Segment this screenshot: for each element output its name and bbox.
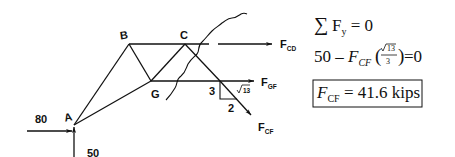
svg-text:13: 13 — [243, 87, 251, 94]
node-label-G: G — [151, 88, 160, 100]
svg-text:FCF = 41.6 kips: FCF = 41.6 kips — [316, 83, 420, 104]
node-label-B: B — [119, 29, 129, 42]
svg-text:50 – FCF: 50 – FCF — [314, 47, 372, 68]
truss-section-diagram: A B C G 80 50 FCD FGF FCF 3 2 13 ∑ Fy = … — [0, 0, 455, 157]
slope-rise-label: 3 — [209, 85, 215, 97]
svg-text:∑: ∑ — [314, 13, 328, 36]
svg-text:13: 13 — [387, 44, 395, 53]
member-CF — [185, 44, 220, 81]
slope-run-label: 2 — [228, 102, 234, 114]
svg-text:=0: =0 — [404, 47, 422, 66]
equation-sum-fy: ∑ Fy = 0 — [314, 13, 373, 37]
node-label-C: C — [180, 29, 188, 41]
load-50-label: 50 — [87, 147, 99, 157]
section-cut-line — [166, 13, 247, 100]
force-arrows — [27, 44, 272, 157]
svg-text:3: 3 — [386, 57, 390, 66]
node-label-A: A — [63, 110, 73, 123]
result-box-fcf: FCF = 41.6 kips — [313, 80, 422, 107]
truss-members — [74, 44, 220, 125]
load-80-label: 80 — [35, 113, 47, 125]
slope-hyp-label: 13 — [237, 85, 251, 94]
svg-text:(: ( — [375, 45, 381, 67]
svg-text:Fy = 0: Fy = 0 — [332, 16, 373, 37]
member-GC — [151, 44, 185, 81]
label-FCF: FCF — [258, 121, 273, 135]
label-FGF: FGF — [261, 76, 277, 90]
member-AG — [74, 81, 151, 125]
member-BG — [129, 44, 151, 81]
equation-fcf-balance: 50 – FCF ( 13 3 ) =0 — [314, 44, 422, 68]
member-AB — [74, 44, 129, 125]
label-FCD: FCD — [280, 38, 296, 52]
